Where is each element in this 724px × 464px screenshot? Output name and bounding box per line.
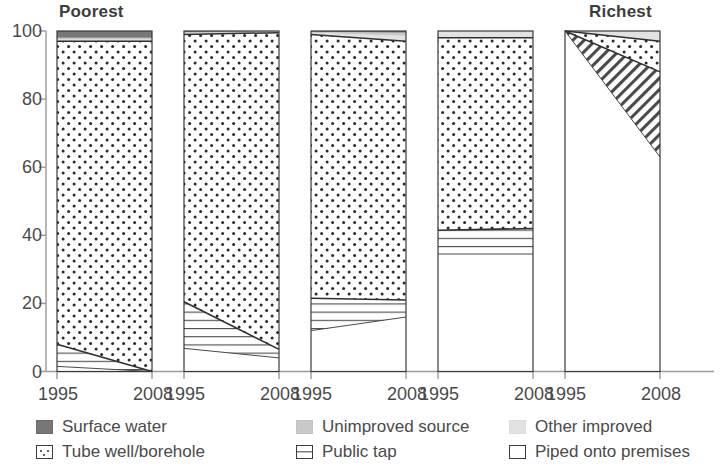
y-tick-label-100: 100 [12,21,42,42]
quintile-band-richest [565,31,660,372]
y-tick-label-80: 80 [22,89,42,110]
y-tick-label-20: 20 [22,293,42,314]
quintile-band-poorest [57,31,152,372]
legend-label-other-improved: Other improved [535,418,652,435]
y-axis-labels: 100 80 60 40 20 0 [0,0,42,400]
x-tick-label-7: 1995 [419,384,459,405]
group-title-richest: Richest [589,2,652,22]
stacked-area-plot [0,0,724,400]
legend-item-other-improved: Other improved [509,418,652,435]
legend-item-surface-water: Surface water [36,418,167,435]
public-tap-swatch-icon [296,445,313,459]
quintile-band-fourth [438,31,533,372]
legend-item-unimproved-source: Unimproved source [296,418,469,435]
piped-onto-premises-swatch-icon [509,445,526,459]
legend-label-piped-onto-premises: Piped onto premises [535,443,690,460]
chart-figure: Poorest Richest 100 80 60 40 20 0 1995 2… [0,0,724,464]
legend-item-tube-well: Tube well/borehole [36,443,205,460]
legend-label-public-tap: Public tap [322,443,397,460]
y-tick-label-40: 40 [22,225,42,246]
group-title-poorest: Poorest [59,2,124,22]
x-tick-label-9: 1995 [546,384,586,405]
y-tick-label-0: 0 [32,361,42,382]
legend-item-piped-onto-premises: Piped onto premises [509,443,690,460]
legend-label-surface-water: Surface water [62,418,167,435]
y-tick-label-60: 60 [22,157,42,178]
x-tick-marks [57,372,660,380]
legend-label-unimproved-source: Unimproved source [322,418,469,435]
tube-well-swatch-icon [36,445,53,459]
x-tick-label-10: 2008 [641,384,681,405]
x-tick-label-3: 1995 [165,384,205,405]
other-improved-swatch-icon [509,420,526,434]
surface-water-swatch-icon [36,420,53,434]
quintile-band-middle [311,31,406,372]
legend-label-tube-well: Tube well/borehole [62,443,205,460]
legend-item-public-tap: Public tap [296,443,397,460]
x-tick-label-1: 1995 [38,384,78,405]
x-tick-label-5: 1995 [292,384,332,405]
quintile-band-second [184,31,279,372]
unimproved-source-swatch-icon [296,420,313,434]
